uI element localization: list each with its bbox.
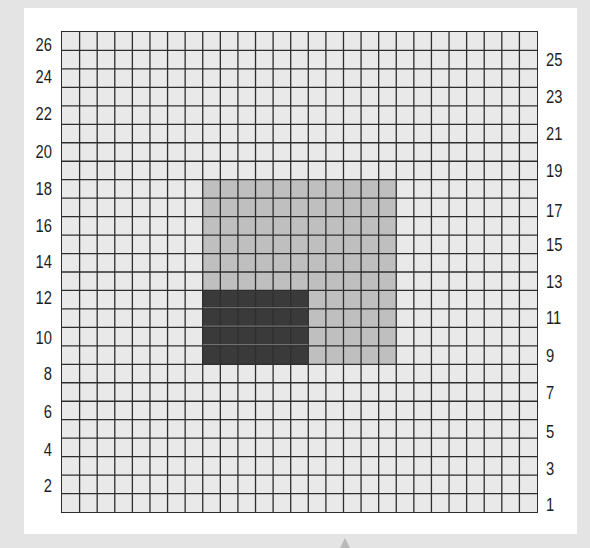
left-axis-label: 24 (19, 68, 52, 86)
right-axis-label: 9 (546, 347, 554, 365)
pointer-triangle-icon (340, 538, 350, 548)
left-axis-label: 8 (19, 365, 52, 383)
right-axis-label: 5 (546, 423, 554, 441)
right-axis-label: 21 (546, 125, 562, 143)
right-axis-label: 19 (546, 162, 562, 180)
left-axis-label: 18 (19, 180, 52, 198)
left-axis-label: 26 (19, 36, 52, 54)
left-axis-label: 14 (19, 253, 52, 271)
left-axis-label: 2 (19, 477, 52, 495)
left-axis-label: 22 (19, 105, 52, 123)
right-axis-label: 11 (546, 309, 561, 327)
right-axis-label: 3 (546, 460, 554, 478)
right-axis-label: 17 (546, 202, 562, 220)
left-axis-label: 10 (19, 329, 52, 347)
square-grid (61, 31, 538, 513)
right-axis-label: 13 (546, 273, 562, 291)
grid-lines (62, 32, 537, 512)
right-axis-label: 7 (546, 384, 554, 402)
left-axis-label: 4 (19, 441, 52, 459)
right-axis-label: 25 (546, 51, 562, 69)
left-axis-label: 16 (19, 217, 52, 235)
right-axis-label: 15 (546, 236, 562, 254)
left-axis-label: 6 (19, 403, 52, 421)
right-axis-label: 23 (546, 88, 562, 106)
left-axis-label: 12 (19, 289, 52, 307)
left-axis-label: 20 (19, 143, 52, 161)
right-axis-label: 1 (546, 496, 554, 514)
